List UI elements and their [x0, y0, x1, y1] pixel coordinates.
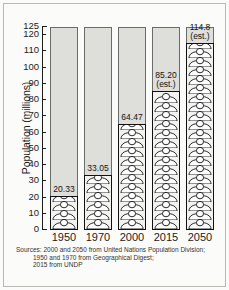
sources-line-3: 2015 from UNDP [33, 261, 224, 269]
y-tick-mark [42, 67, 46, 68]
bar-fill-1950[interactable] [50, 196, 78, 230]
person-row [85, 220, 111, 229]
y-tick-mark [42, 213, 46, 214]
person-row [153, 220, 179, 229]
bar-fill-2050[interactable] [186, 43, 214, 230]
y-tick-mark [42, 132, 46, 133]
y-tick-label: 100 [23, 61, 39, 72]
x-axis-label-2050: 2050 [183, 231, 217, 243]
person-stack [187, 43, 213, 229]
y-tick-label: 10 [28, 207, 39, 218]
y-tick-20: 20 [42, 197, 46, 198]
y-tick-mark [42, 83, 46, 84]
person-icon [86, 219, 110, 229]
y-tick-mark [42, 180, 46, 181]
y-tick-label: 125 [23, 20, 39, 31]
y-tick-mark [42, 115, 46, 116]
bar-column-1970[interactable] [84, 27, 112, 230]
bar-columns: 20.3333.0564.4785.20(est.)114.8(est.) [48, 26, 220, 230]
person-icon [188, 219, 212, 229]
bar-column-2015[interactable] [152, 27, 180, 230]
x-axis-label-1950: 1950 [47, 231, 81, 243]
person-icon [52, 219, 76, 229]
value-label-number: 20.33 [53, 184, 74, 194]
person-row [119, 220, 145, 229]
y-tick-110: 110 [42, 50, 46, 51]
y-tick-mark [42, 164, 46, 165]
person-icon [154, 219, 178, 229]
y-tick-mark [42, 148, 46, 149]
person-stack [119, 124, 145, 229]
y-tick-50: 50 [42, 148, 46, 149]
y-tick-0: 0 [42, 229, 46, 230]
y-tick-mark [42, 50, 46, 51]
y-tick-120: 120 [42, 34, 46, 35]
value-label-2050: 114.8(est.) [183, 23, 217, 41]
y-tick-mark [42, 99, 46, 100]
person-icon [120, 219, 144, 229]
value-label-estimate: (est.) [183, 32, 217, 41]
value-label-2015: 85.20(est.) [149, 71, 183, 89]
value-label-estimate: (est.) [149, 80, 183, 89]
bar-column-1950[interactable] [50, 27, 78, 230]
person-row [187, 220, 213, 229]
y-tick-mark [42, 197, 46, 198]
person-stack [153, 94, 179, 229]
y-tick-label: 60 [28, 126, 39, 137]
y-tick-40: 40 [42, 164, 46, 165]
y-tick-mark [42, 34, 46, 35]
y-tick-label: 90 [28, 77, 39, 88]
bar-fill-1970[interactable] [84, 175, 112, 230]
y-axis-line [42, 26, 43, 230]
bar-column-2050[interactable] [186, 27, 214, 230]
x-axis-label-2000: 2000 [115, 231, 149, 243]
sources-line-2: 1950 and 1970 from Geographical Digest; [33, 254, 224, 262]
person-stack [85, 175, 111, 229]
x-axis-label-2015: 2015 [149, 231, 183, 243]
y-tick-mark [42, 229, 46, 230]
bar-column-2000[interactable] [118, 27, 146, 230]
y-tick-label: 20 [28, 191, 39, 202]
y-tick-70: 70 [42, 115, 46, 116]
y-tick-label: 0 [34, 223, 39, 234]
bar-fill-2000[interactable] [118, 124, 146, 230]
y-tick-label: 40 [28, 158, 39, 169]
y-tick-mark [42, 26, 46, 27]
sources-caption: Sources: 2000 and 2050 from United Natio… [16, 246, 224, 269]
plot-area: 0102030405060708090100110120125 20.3333.… [42, 26, 220, 229]
y-tick-label: 70 [28, 109, 39, 120]
y-tick-label: 50 [28, 142, 39, 153]
value-label-number: 33.05 [87, 163, 108, 173]
y-tick-label: 80 [28, 93, 39, 104]
y-tick-10: 10 [42, 213, 46, 214]
figure-frame: Population (millions) 010203040506070809… [3, 3, 226, 287]
value-label-number: 64.47 [121, 112, 142, 122]
y-tick-label: 30 [28, 174, 39, 185]
value-label-1970: 33.05 [81, 164, 115, 173]
value-label-2000: 64.47 [115, 113, 149, 122]
value-label-1950: 20.33 [47, 185, 81, 194]
y-tick-60: 60 [42, 132, 46, 133]
person-stack [51, 196, 77, 229]
y-tick-125: 125 [42, 26, 46, 27]
x-axis-label-1970: 1970 [81, 231, 115, 243]
y-tick-30: 30 [42, 180, 46, 181]
chart-page: Population (millions) 010203040506070809… [0, 0, 229, 290]
y-tick-100: 100 [42, 67, 46, 68]
y-tick-80: 80 [42, 99, 46, 100]
x-axis-labels: 19501970200020152050 [48, 231, 220, 245]
bar-fill-2015[interactable] [152, 91, 180, 230]
y-tick-label: 110 [24, 44, 39, 55]
person-row [51, 220, 77, 229]
y-tick-90: 90 [42, 83, 46, 84]
sources-line-1: Sources: 2000 and 2050 from United Natio… [16, 246, 224, 254]
